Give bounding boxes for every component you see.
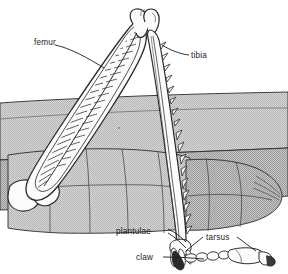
tarsomere-2 xyxy=(196,252,209,261)
tarsomere-3 xyxy=(207,251,220,260)
figure-container: femur tibia plantulae tarsus claw xyxy=(0,0,288,274)
insect-leg-diagram: femur tibia plantulae tarsus claw xyxy=(0,0,288,274)
label-tibia: tibia xyxy=(191,51,207,60)
body-speck xyxy=(118,127,120,129)
label-tarsus: tarsus xyxy=(206,233,230,242)
label-claw: claw xyxy=(136,253,153,262)
label-femur: femur xyxy=(34,38,56,47)
label-plantulae: plantulae xyxy=(116,227,151,236)
